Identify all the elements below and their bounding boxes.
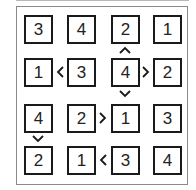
left-chevron-icon	[54, 64, 66, 80]
cell-r2c1[interactable]: 1	[24, 58, 53, 87]
cell-r3c4[interactable]: 3	[153, 104, 182, 133]
cell-r3c3[interactable]: 1	[111, 104, 140, 133]
cell-r1c4[interactable]: 1	[153, 15, 182, 44]
left-chevron-icon	[97, 152, 109, 168]
top-divider	[16, 0, 189, 1]
cell-r2c4[interactable]: 2	[153, 58, 182, 87]
cell-r1c2[interactable]: 4	[67, 15, 96, 44]
down-chevron-icon	[31, 134, 45, 144]
right-chevron-icon	[140, 64, 152, 80]
cell-r4c2[interactable]: 1	[67, 146, 96, 175]
cell-r3c1[interactable]: 4	[24, 104, 53, 133]
cell-r2c2[interactable]: 3	[67, 58, 96, 87]
right-chevron-icon	[97, 110, 109, 126]
down-chevron-icon	[118, 89, 132, 99]
up-chevron-icon	[118, 45, 132, 55]
cell-r2c3[interactable]: 4	[111, 58, 140, 87]
cell-r3c2[interactable]: 2	[67, 104, 96, 133]
cell-r4c1[interactable]: 2	[24, 146, 53, 175]
cell-r4c4[interactable]: 4	[153, 146, 182, 175]
cell-r1c3[interactable]: 2	[111, 15, 140, 44]
cell-r4c3[interactable]: 3	[111, 146, 140, 175]
cell-r1c1[interactable]: 3	[24, 15, 53, 44]
